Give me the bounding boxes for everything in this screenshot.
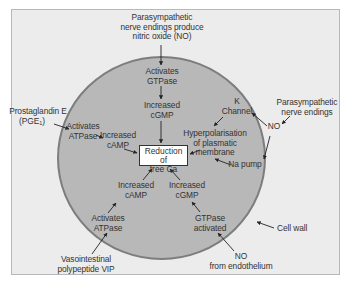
label-no-right: NO xyxy=(268,122,280,132)
box-line: Reduction of xyxy=(140,147,187,166)
label-fragment: (PGE xyxy=(19,116,39,126)
label-line: ATPase xyxy=(91,224,124,234)
label-gtpase-activated: GTPase activated xyxy=(194,214,227,233)
label-no-endothelium: NO from endothelium xyxy=(209,252,272,271)
label-line: cAMP xyxy=(118,191,154,201)
label-line: activated xyxy=(194,224,227,234)
label-cell-wall: Cell wall xyxy=(277,224,307,234)
label-line: nitric oxide (NO) xyxy=(120,32,203,42)
label-vip: Vasointestinal polypeptide VIP xyxy=(57,255,114,274)
label-prostaglandin: Prostaglandin E (PGE1) xyxy=(9,107,67,128)
box-line: free Ca xyxy=(140,165,187,174)
label-increased-cgmp-bottom: Increased cGMP xyxy=(169,181,205,200)
label-line: NO xyxy=(268,122,280,132)
label-line: polypeptide VIP xyxy=(57,265,114,275)
label-activates-atpase-left: Activates ATPase xyxy=(66,122,99,141)
label-line: Channel xyxy=(222,107,253,117)
label-line: cAMP xyxy=(100,141,136,151)
label-line: cGMP xyxy=(169,191,205,201)
label-hyperpolarisation: Hyperpolarisation of plasmatic membrane xyxy=(183,129,246,158)
label-line: from endothelium xyxy=(209,262,272,272)
label-top-source: Parasympathetic nerve endings produce ni… xyxy=(120,13,203,42)
label-line: cGMP xyxy=(144,111,180,121)
label-line: (PGE1) xyxy=(9,117,67,129)
label-increased-camp-bottom: Increased cAMP xyxy=(118,181,154,200)
label-fragment: ) xyxy=(42,116,45,126)
label-line: ATPase xyxy=(66,132,99,142)
arrow-cellwall-label xyxy=(257,222,274,228)
label-line: Cell wall xyxy=(277,224,307,234)
label-line: nerve endings xyxy=(277,108,338,118)
arrow-parasym-to-no xyxy=(282,116,290,124)
label-line: Na pump xyxy=(228,160,261,170)
label-increased-cgmp-top: Increased cGMP xyxy=(144,101,180,120)
label-line: GTPase xyxy=(145,77,178,87)
diagram-graphics xyxy=(0,0,350,283)
label-k-channel: K Channel xyxy=(222,97,253,116)
label-line: membrane xyxy=(183,148,246,158)
label-parasympathetic-right: Parasympathetic nerve endings xyxy=(277,98,338,117)
label-activates-gtpase: Activates GTPase xyxy=(145,67,178,86)
label-activates-atpase-bottom: Activates ATPase xyxy=(91,214,124,233)
label-increased-camp-left: Increased cAMP xyxy=(100,131,136,150)
central-box-reduction-free-ca: Reduction of free Ca xyxy=(139,145,188,166)
label-na-pump: Na pump xyxy=(228,160,261,170)
